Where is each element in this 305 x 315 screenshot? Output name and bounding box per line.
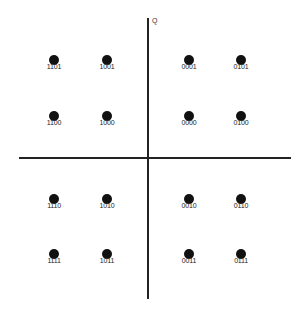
constellation-point: 1000 bbox=[92, 111, 122, 133]
symbol-label: 0010 bbox=[174, 202, 204, 209]
symbol-label: 1010 bbox=[92, 202, 122, 209]
symbol-label: 0011 bbox=[174, 257, 204, 264]
constellation-point: 0100 bbox=[226, 111, 256, 133]
symbol-label: 1101 bbox=[39, 63, 69, 70]
constellation-point: 0101 bbox=[226, 55, 256, 77]
constellation-point: 0111 bbox=[226, 249, 256, 271]
symbol-label: 0100 bbox=[226, 119, 256, 126]
constellation-point: 0011 bbox=[174, 249, 204, 271]
symbol-label: 0111 bbox=[226, 257, 256, 264]
constellation-point: 1111 bbox=[39, 249, 69, 271]
constellation-point: 1110 bbox=[39, 194, 69, 216]
constellation-diagram: Q 11011001000101011100100000000100111010… bbox=[0, 0, 305, 315]
i-axis bbox=[19, 157, 291, 159]
symbol-label: 1001 bbox=[92, 63, 122, 70]
symbol-label: 1110 bbox=[39, 202, 69, 209]
q-axis-label: Q bbox=[152, 17, 157, 24]
constellation-point: 1101 bbox=[39, 55, 69, 77]
constellation-point: 1001 bbox=[92, 55, 122, 77]
symbol-label: 1100 bbox=[39, 119, 69, 126]
symbol-label: 0101 bbox=[226, 63, 256, 70]
constellation-point: 1100 bbox=[39, 111, 69, 133]
symbol-label: 1011 bbox=[92, 257, 122, 264]
constellation-point: 0010 bbox=[174, 194, 204, 216]
symbol-label: 1111 bbox=[39, 257, 69, 264]
constellation-point: 0000 bbox=[174, 111, 204, 133]
constellation-point: 1010 bbox=[92, 194, 122, 216]
constellation-point: 0001 bbox=[174, 55, 204, 77]
symbol-label: 0110 bbox=[226, 202, 256, 209]
symbol-label: 0001 bbox=[174, 63, 204, 70]
constellation-point: 1011 bbox=[92, 249, 122, 271]
symbol-label: 1000 bbox=[92, 119, 122, 126]
constellation-point: 0110 bbox=[226, 194, 256, 216]
symbol-label: 0000 bbox=[174, 119, 204, 126]
